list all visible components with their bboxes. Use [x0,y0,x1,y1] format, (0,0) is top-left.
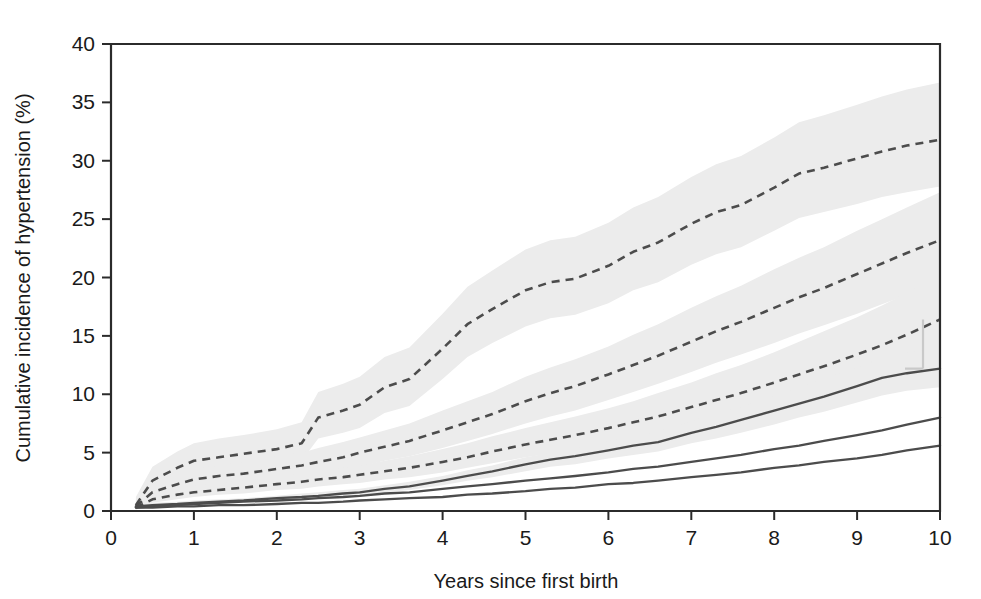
x-tick-label: 0 [105,526,117,549]
cumulative-incidence-chart: 0510152025303540 012345678910 Years sinc… [0,0,981,599]
y-tick-label: 30 [72,149,95,172]
x-tick-label: 8 [768,526,780,549]
x-tick-label: 2 [271,526,283,549]
y-tick-label: 20 [72,266,95,289]
x-tick-label: 10 [928,526,951,549]
x-tick-label: 6 [603,526,615,549]
y-tick-label: 25 [72,207,95,230]
x-axis-title: Years since first birth [434,570,619,592]
y-tick-label: 10 [72,382,95,405]
y-tick-label: 40 [72,32,95,55]
x-tick-label: 1 [188,526,200,549]
y-axis-title: Cumulative incidence of hypertension (%) [12,93,34,462]
figure-container: 0510152025303540 012345678910 Years sinc… [0,0,981,599]
y-tick-label: 0 [83,499,95,522]
y-tick-label: 15 [72,324,95,347]
x-tick-label: 4 [437,526,449,549]
y-tick-label: 35 [72,90,95,113]
x-tick-label: 5 [520,526,532,549]
y-tick-label: 5 [83,441,95,464]
x-tick-label: 9 [851,526,863,549]
x-tick-label: 3 [354,526,366,549]
x-tick-label: 7 [685,526,697,549]
